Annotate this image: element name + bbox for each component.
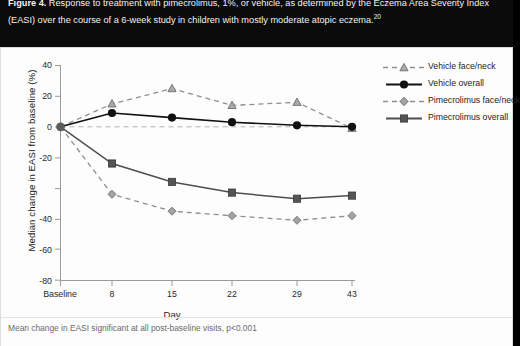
triangle-marker (382, 59, 426, 76)
legend-item-pimecrolimus-face-neck: Pimecrolimus face/neck (382, 93, 513, 110)
legend-item-pimecrolimus-overall: Pimecrolimus overall (382, 110, 513, 127)
x-tick-label: Baseline (30, 289, 90, 299)
legend-label: Pimecrolimus face/neck (428, 95, 520, 105)
legend-label: Pimecrolimus overall (428, 112, 508, 122)
y-tick-label: -40 (26, 214, 52, 224)
y-tick-label: -80 (26, 276, 52, 286)
chart-panel: Median change in EASI from baseline (%) … (0, 47, 513, 346)
footnote: Mean change in EASI significant at all p… (8, 323, 257, 333)
figure-label: Figure 4. (8, 0, 46, 8)
y-tick-label: 0 (26, 122, 52, 132)
x-tick-marks (61, 281, 353, 287)
square-marker (382, 110, 426, 127)
series-markers-pimecrolimus-overall (108, 160, 355, 202)
legend-label: Vehicle overall (428, 78, 484, 88)
legend-item-vehicle-overall: Vehicle overall (382, 76, 513, 93)
y-tick-label: 20 (26, 91, 52, 101)
y-tick-label: 40 (26, 60, 52, 70)
x-axis-title: Day (142, 309, 202, 320)
series-line-pimecrolimus-overall (61, 127, 353, 199)
diamond-marker (382, 93, 426, 110)
legend-label: Vehicle face/neck (428, 61, 496, 71)
series-line-vehicle-face-neck (61, 89, 353, 129)
circle-marker (382, 76, 426, 93)
x-tick-label: 22 (202, 289, 262, 299)
series-line-pimecrolimus-face-neck (61, 127, 353, 221)
y-tick-marks (55, 66, 61, 281)
x-tick-label: 8 (82, 289, 142, 299)
y-tick-label: -20 (26, 153, 52, 163)
legend-item-vehicle-face-neck: Vehicle face/neck (382, 59, 513, 76)
x-tick-label: 15 (142, 289, 202, 299)
footnote-divider (0, 317, 513, 318)
chart-legend: Vehicle face/neck Vehicle overall (382, 59, 513, 127)
figure-caption-text: Response to treatment with pimecrolimus,… (8, 0, 489, 25)
figure-reference: 20 (374, 13, 381, 20)
x-tick-label: 43 (322, 289, 382, 299)
y-tick-label: -60 (26, 245, 52, 255)
x-tick-label: 29 (267, 289, 327, 299)
series-line-vehicle-overall (61, 113, 353, 127)
figure-caption: Figure 4. Response to treatment with pim… (0, 0, 513, 47)
